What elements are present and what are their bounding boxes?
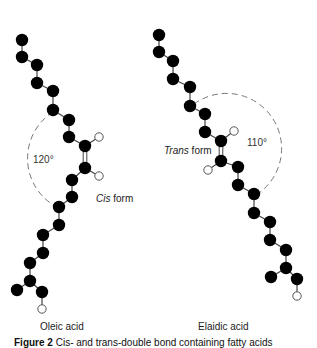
carbon-atom [31, 77, 43, 89]
carbon-atom [153, 29, 165, 41]
trans-form-label: Trans form [164, 145, 212, 156]
carbon-atom [248, 188, 260, 200]
trans-angle-label: 110° [247, 137, 267, 148]
hydrogen-atom [293, 292, 301, 300]
hydrogen-atom [230, 127, 238, 135]
carbon-atom [167, 55, 179, 67]
carbon-atom [36, 286, 48, 298]
carbon-atom [232, 179, 244, 191]
cis-italic: Cis [96, 193, 110, 204]
carbon-atom [264, 234, 276, 246]
carbon-atom [264, 216, 276, 228]
caption-text: Cis- and trans-double bond containing fa… [53, 337, 273, 348]
carbon-atom [37, 247, 49, 259]
oleic-acid-label: Oleic acid [40, 321, 84, 332]
carbon-atom [153, 46, 165, 58]
carbon-atom [66, 191, 78, 203]
carbon-atom [215, 135, 227, 147]
carbon-atom [53, 219, 65, 231]
carbon-atom [16, 34, 28, 46]
carbon-atom [184, 100, 196, 112]
hydrogen-atom [204, 166, 212, 174]
carbon-atom [47, 85, 59, 97]
carbon-atom [63, 131, 75, 143]
carbon-atom [280, 244, 292, 256]
trans-italic: Trans [164, 145, 189, 156]
elaidic-acid-label: Elaidic acid [198, 321, 249, 332]
carbon-atom [24, 275, 36, 287]
carbon-atom [199, 108, 211, 120]
hydrogen-atom [38, 305, 46, 313]
carbon-atom [184, 81, 196, 93]
carbon-atom [79, 140, 91, 152]
figure-caption: Figure 2 Cis- and trans-double bond cont… [14, 337, 272, 348]
carbon-atom [248, 207, 260, 219]
carbon-atom [37, 229, 49, 241]
carbon-atom [63, 114, 75, 126]
cis-angle-label: 120° [33, 154, 54, 165]
carbon-atom [291, 273, 303, 285]
carbon-atom [53, 201, 65, 213]
carbon-atom [280, 262, 292, 274]
elaidic-acid-molecule [153, 29, 303, 300]
cis-form-label: Cis form [96, 193, 133, 204]
hydrogen-atom [95, 133, 103, 141]
carbon-atom [16, 51, 28, 63]
caption-label: Figure 2 [14, 337, 53, 348]
carbon-atom [215, 155, 227, 167]
hydrogen-atom [95, 172, 103, 180]
carbon-atom [79, 162, 91, 174]
carbon-atom [265, 271, 277, 283]
carbon-atom [167, 73, 179, 85]
carbon-atom [232, 161, 244, 173]
carbon-atom [66, 174, 78, 186]
carbon-atom [199, 126, 211, 138]
trans-form-suffix: form [189, 145, 212, 156]
oleic-acid-molecule [11, 34, 103, 313]
carbon-atom [47, 104, 59, 116]
cis-form-suffix: form [110, 193, 133, 204]
carbon-atom [24, 257, 36, 269]
carbon-atom [31, 59, 43, 71]
carbon-atom [11, 284, 23, 296]
